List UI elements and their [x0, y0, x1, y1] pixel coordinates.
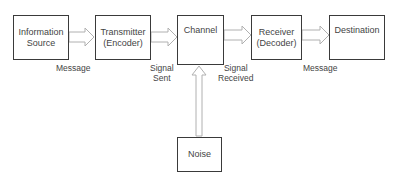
node-label: Transmitter [100, 27, 145, 37]
node-sublabel: (Decoder) [256, 38, 296, 48]
node-label: Information [18, 27, 63, 37]
node-channel: Channel [177, 15, 224, 65]
edge-label-text: Signal [224, 63, 248, 73]
node-information-source: InformationSource [13, 15, 69, 60]
node-receiver: Receiver(Decoder) [251, 15, 302, 60]
edge-label-text: Message [56, 63, 91, 73]
edge-label-message-2: Message [303, 63, 338, 73]
node-sublabel: (Encoder) [103, 38, 143, 48]
node-label: Channel [184, 25, 218, 35]
edge-label-text: Received [218, 73, 253, 83]
edge-label-message-1: Message [56, 63, 91, 73]
node-noise: Noise [177, 137, 222, 172]
node-label: Destination [334, 25, 379, 35]
edge-label-text: Signal [150, 63, 174, 73]
arrow-receiver-to-destination [302, 26, 329, 44]
edge-label-signal-received: Signal Received [218, 63, 253, 83]
node-transmitter: Transmitter(Encoder) [95, 15, 151, 60]
node-destination: Destination [329, 15, 385, 60]
arrow-transmitter-to-channel [151, 28, 177, 46]
arrow-noise-to-channel [192, 66, 206, 136]
edge-label-text: Message [303, 63, 338, 73]
node-label: Noise [188, 149, 211, 159]
edge-label-signal-sent: Signal Sent [150, 63, 174, 83]
arrow-channel-to-receiver [224, 26, 251, 44]
edge-label-text: Sent [153, 73, 171, 83]
arrow-source-to-transmitter [69, 28, 94, 46]
node-label: Receiver [259, 27, 295, 37]
node-sublabel: Source [27, 38, 56, 48]
